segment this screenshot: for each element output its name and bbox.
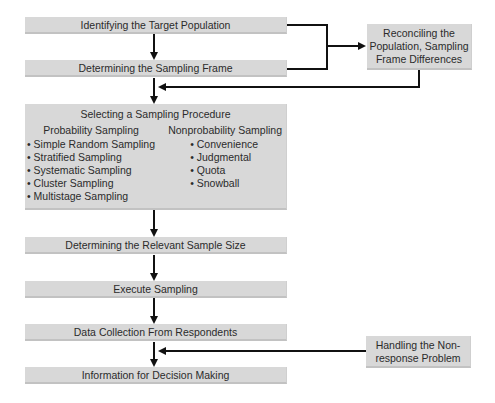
nonresponse-problem-box: Handling the Non- response Problem — [366, 336, 471, 368]
reconcile-line-1: Reconciling the — [367, 27, 471, 40]
list-item: Quota — [190, 164, 282, 177]
reconcile-line-3: Frame Differences — [367, 53, 471, 66]
list-item: Snowball — [190, 177, 282, 190]
list-item: Judgmental — [190, 151, 282, 164]
list-item: Cluster Sampling — [27, 177, 155, 190]
step-label: Execute Sampling — [113, 283, 198, 295]
nonresponse-line-1: Handling the Non- — [366, 339, 470, 352]
step-identify-target-population: Identifying the Target Population — [25, 17, 287, 34]
list-item: Convenience — [190, 138, 282, 151]
nonprobability-heading: Nonprobability Sampling — [168, 124, 282, 137]
step-label: Data Collection From Respondents — [74, 326, 237, 338]
step-label: Information for Decision Making — [82, 369, 230, 381]
reconcile-line-2: Population, Sampling — [367, 40, 471, 53]
list-item: Multistage Sampling — [27, 190, 155, 203]
nonresponse-line-2: response Problem — [366, 352, 470, 365]
step-execute-sampling: Execute Sampling — [25, 281, 287, 298]
probability-heading: Probability Sampling — [27, 124, 155, 137]
nonprobability-sampling-column: Nonprobability Sampling Convenience Judg… — [168, 124, 282, 203]
probability-sampling-column: Probability Sampling Simple Random Sampl… — [27, 124, 155, 203]
step-information-decision-making: Information for Decision Making — [25, 367, 287, 384]
step-determine-sampling-frame: Determining the Sampling Frame — [25, 60, 287, 77]
step-determine-sample-size: Determining the Relevant Sample Size — [25, 237, 287, 254]
list-item: Systematic Sampling — [27, 164, 155, 177]
reconcile-differences-box: Reconciling the Population, Sampling Fra… — [367, 24, 472, 70]
list-item: Stratified Sampling — [27, 151, 155, 164]
step-label: Identifying the Target Population — [81, 19, 231, 31]
step-label: Determining the Relevant Sample Size — [65, 239, 245, 251]
step-label: Determining the Sampling Frame — [78, 62, 232, 74]
procedure-title: Selecting a Sampling Procedure — [25, 108, 286, 121]
step-select-sampling-procedure: Selecting a Sampling Procedure Probabili… — [25, 104, 287, 210]
list-item: Simple Random Sampling — [27, 138, 155, 151]
step-data-collection: Data Collection From Respondents — [25, 324, 287, 341]
